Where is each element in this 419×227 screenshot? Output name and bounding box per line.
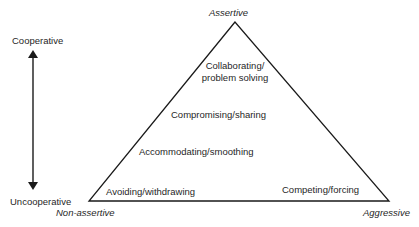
- style-avoiding: Avoiding/withdrawing: [106, 186, 195, 197]
- style-accommodating: Accommodating/smoothing: [139, 146, 254, 157]
- style-collaborating-line1: Collaborating/: [189, 60, 281, 72]
- style-competing: Competing/forcing: [282, 184, 359, 195]
- assertive-label: Assertive: [209, 7, 248, 18]
- style-collaborating: Collaborating/ problem solving: [189, 60, 281, 84]
- cooperative-label: Cooperative: [12, 35, 63, 46]
- aggressive-label: Aggressive: [363, 207, 410, 218]
- style-collaborating-line2: problem solving: [189, 72, 281, 84]
- non-assertive-label: Non-assertive: [56, 207, 115, 218]
- style-compromising: Compromising/sharing: [171, 109, 266, 120]
- uncooperative-label: Uncooperative: [10, 196, 71, 207]
- conflict-styles-diagram: Cooperative Uncooperative Assertive Non-…: [0, 0, 419, 227]
